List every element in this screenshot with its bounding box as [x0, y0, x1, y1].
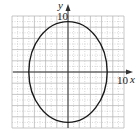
ellipse-plot: y 10 10 x — [0, 0, 139, 133]
x-tick-label: 10 — [117, 74, 129, 86]
y-tick-label: 10 — [57, 10, 69, 22]
x-axis-label: x — [129, 73, 135, 85]
